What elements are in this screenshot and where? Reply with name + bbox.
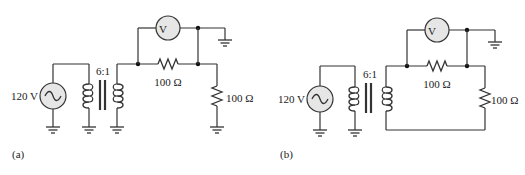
ground-icon <box>488 42 502 48</box>
voltmeter-label: V <box>159 23 167 35</box>
series-resistor-label: 100 Ω <box>423 78 450 90</box>
ground-icon <box>348 130 362 136</box>
series-resistor-icon <box>427 61 447 71</box>
circuit-b <box>307 18 502 136</box>
ground-icon <box>210 127 224 133</box>
source-voltage-label: 120 V <box>278 93 305 105</box>
turns-ratio-label: 6:1 <box>96 65 110 77</box>
circuit-a <box>40 16 232 133</box>
secondary-coil-icon <box>113 84 123 108</box>
circuit-diagram: V 120 V 6:1 100 Ω 100 Ω (a) <box>0 0 525 175</box>
figure-label-b: (b) <box>280 148 293 161</box>
ground-icon <box>218 40 232 46</box>
figure-label-a: (a) <box>12 148 25 161</box>
series-resistor-icon <box>158 59 178 69</box>
voltmeter-label: V <box>428 25 436 37</box>
load-resistor-icon <box>212 86 222 106</box>
ground-icon <box>46 127 60 133</box>
secondary-coil-icon <box>382 87 392 111</box>
primary-coil-icon <box>83 84 93 108</box>
source-voltage-label: 120 V <box>11 90 38 102</box>
turns-ratio-label: 6:1 <box>363 68 377 80</box>
ground-icon <box>110 127 124 133</box>
ground-icon <box>313 130 327 136</box>
load-resistor-label: 100 Ω <box>491 94 518 106</box>
primary-coil-icon <box>349 87 359 111</box>
series-resistor-label: 100 Ω <box>154 76 181 88</box>
ground-icon <box>82 127 96 133</box>
load-resistor-label: 100 Ω <box>226 92 253 104</box>
load-resistor-icon <box>480 88 490 108</box>
